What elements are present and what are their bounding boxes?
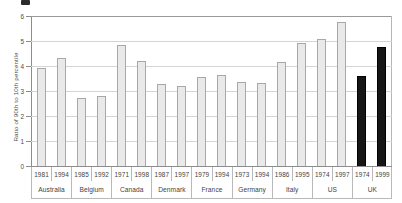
x-axis-year-label: 1997 [332, 167, 352, 181]
x-axis-year-label: 1974 [312, 167, 332, 181]
x-axis-country-label: UK [352, 181, 392, 198]
x-axis-country-label: Belgium [71, 181, 111, 198]
x-axis-year-label: 1981 [31, 167, 51, 181]
x-axis-year-label: 1971 [111, 167, 131, 181]
x-axis-year-label: 1985 [71, 167, 91, 181]
x-axis-year-label: 1994 [51, 167, 71, 181]
x-axis-year-label: 1979 [191, 167, 211, 181]
x-axis-country-label: Denmark [151, 181, 191, 198]
y-axis-tick-label: 1 [13, 138, 24, 145]
y-axis-tick-label: 6 [13, 13, 24, 20]
bar [157, 84, 166, 166]
x-axis-year-label: 1995 [292, 167, 312, 181]
x-axis-country-label: Australia [31, 181, 71, 198]
plot-area [31, 16, 392, 166]
bar [197, 77, 206, 166]
y-axis-tick-label: 0 [13, 163, 24, 170]
x-axis-country-label: Canada [111, 181, 151, 198]
bar [297, 43, 306, 166]
x-axis-year-label: 1998 [131, 167, 151, 181]
x-axis-country-label: Germany [232, 181, 272, 198]
bar [177, 86, 186, 167]
bar [137, 61, 146, 166]
labels-bottom-rule [31, 198, 392, 199]
x-axis-year-label: 1994 [252, 167, 272, 181]
bar [257, 83, 266, 166]
bar [337, 22, 346, 166]
plot-frame-top [31, 16, 392, 17]
x-axis-year-label: 1974 [352, 167, 372, 181]
x-axis-year-label: 1999 [372, 167, 392, 181]
x-axis-country-labels: AustraliaBelgiumCanadaDenmarkFranceGerma… [31, 181, 392, 198]
bar [217, 75, 226, 166]
bar [37, 68, 46, 166]
y-axis-tick-label: 2 [13, 113, 24, 120]
x-axis-country-label: France [191, 181, 231, 198]
x-axis-country-label: US [312, 181, 352, 198]
bar [57, 58, 66, 166]
x-axis-year-label: 1973 [232, 167, 252, 181]
x-axis-year-label: 1986 [272, 167, 292, 181]
bar [317, 39, 326, 166]
bar [377, 47, 386, 167]
x-axis-year-label: 1997 [171, 167, 191, 181]
bar [97, 96, 106, 166]
bar [237, 82, 246, 166]
figure-number-marker [21, 0, 30, 5]
x-axis-year-label: 1994 [212, 167, 232, 181]
bar [277, 62, 286, 167]
y-axis-tick-label: 5 [13, 38, 24, 45]
y-axis-title: Ratio of 90th to 10th percentile [12, 24, 24, 170]
x-axis-year-label: 1987 [151, 167, 171, 181]
bar [117, 45, 126, 166]
bar [77, 98, 86, 166]
bar [357, 76, 366, 166]
x-axis-year-labels: 1981199419851992197119981987199719791994… [31, 167, 392, 181]
x-axis-year-label: 1992 [91, 167, 111, 181]
y-axis-tick-label: 3 [13, 88, 24, 95]
y-axis-tick-label: 4 [13, 63, 24, 70]
x-axis-country-label: Italy [272, 181, 312, 198]
